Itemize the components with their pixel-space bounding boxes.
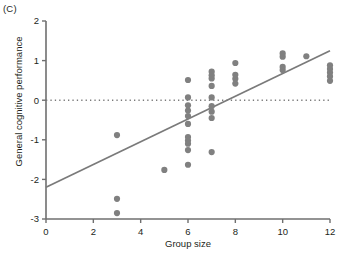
data-point	[185, 94, 191, 100]
x-tick-label: 10	[277, 226, 288, 237]
y-tick-label: 1	[34, 55, 39, 66]
figure-panel-c: (C) General cognitive performance Group …	[0, 0, 342, 255]
y-tick-label: -1	[31, 134, 39, 145]
data-point	[209, 103, 215, 109]
tick-labels-group: 210-1-2-3024681012	[31, 15, 336, 237]
data-point	[114, 196, 120, 202]
data-point	[185, 107, 191, 113]
x-tick-label: 8	[233, 226, 238, 237]
data-point	[232, 80, 238, 86]
data-point	[209, 109, 215, 115]
data-point	[209, 94, 215, 100]
data-point	[161, 167, 167, 173]
data-point	[185, 77, 191, 83]
y-tick-label: -2	[31, 174, 39, 185]
data-point	[185, 113, 191, 119]
y-tick-label: 2	[34, 15, 39, 26]
data-point	[209, 115, 215, 121]
data-point	[209, 83, 215, 89]
data-point	[280, 54, 286, 60]
x-tick-label: 2	[91, 226, 96, 237]
data-point	[232, 60, 238, 66]
x-tick-label: 0	[43, 226, 48, 237]
x-tick-label: 6	[185, 226, 190, 237]
scatter-plot-canvas: 210-1-2-3024681012	[0, 0, 342, 255]
x-tick-label: 4	[138, 226, 143, 237]
data-point	[114, 132, 120, 138]
data-points-group	[114, 50, 333, 216]
data-point	[209, 75, 215, 81]
y-tick-label: -3	[31, 213, 39, 224]
data-point	[185, 147, 191, 153]
data-point	[185, 121, 191, 127]
data-point	[185, 141, 191, 147]
data-point	[280, 67, 286, 73]
data-point	[114, 210, 120, 216]
y-tick-label: 0	[34, 95, 39, 106]
data-point	[209, 149, 215, 155]
data-point	[303, 53, 309, 59]
data-point	[327, 78, 333, 84]
data-point	[185, 162, 191, 168]
x-tick-label: 12	[325, 226, 336, 237]
